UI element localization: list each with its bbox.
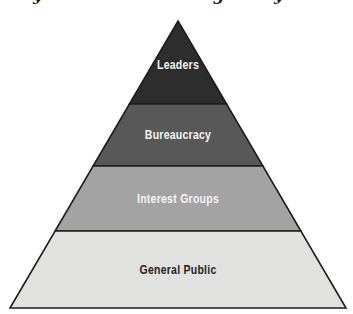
level-label-interest-groups: Interest Groups	[137, 192, 219, 206]
level-label-bureaucracy: Bureaucracy	[145, 128, 211, 142]
cropped-text-fragment: g	[213, 0, 224, 3]
cropped-text-fragment: y	[274, 0, 283, 3]
level-label-leaders: Leaders	[157, 58, 199, 72]
cropped-text-fragment: y	[33, 0, 42, 3]
cropped-title-strip: y g y	[0, 0, 353, 8]
pyramid-diagram: y g y Leaders Bureaucracy Interest Group…	[0, 0, 353, 314]
level-label-general-public: General Public	[139, 263, 216, 277]
